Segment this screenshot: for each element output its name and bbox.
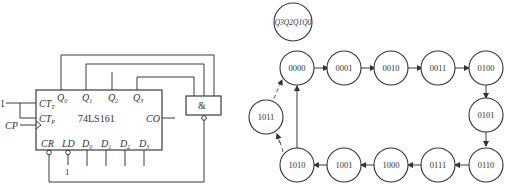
svg-text:0000: 0000 (289, 63, 306, 73)
dashed-seg-1010-1011 (278, 135, 283, 152)
and-gate-symbol: & (198, 100, 206, 111)
enable-input-label: 1 (0, 98, 5, 109)
svg-text:0011: 0011 (430, 63, 447, 73)
state-1000: 1000 (374, 148, 408, 182)
gate-inverter-bubble (202, 116, 207, 121)
svg-text:1011: 1011 (258, 112, 275, 122)
svg-text:1001: 1001 (336, 160, 353, 170)
state-0000: 0000 (280, 51, 314, 85)
co-label: CO (146, 113, 160, 124)
chip-name: 74LS161 (78, 113, 115, 124)
ld-bubble (66, 150, 71, 155)
state-0110: 0110 (469, 148, 503, 182)
svg-text:0100: 0100 (478, 63, 495, 73)
state-legend-label: Q3Q2Q1Q0 (275, 18, 312, 27)
cr-label: CR (41, 138, 54, 149)
svg-text:1010: 1010 (289, 160, 306, 170)
ld-input-label: 1 (65, 167, 70, 177)
diagram-canvas: 1 CTT CTP CP 74LS161 CO Q0 Q1 Q2 Q3 CR L… (0, 0, 521, 191)
state-0101: 0101 (469, 98, 503, 132)
svg-text:0001: 0001 (336, 63, 353, 73)
state-0001: 0001 (327, 51, 361, 85)
svg-text:0110: 0110 (478, 160, 495, 170)
svg-text:0101: 0101 (478, 110, 495, 120)
cp-label: CP (5, 120, 18, 131)
state-0011: 0011 (421, 51, 455, 85)
cr-bubble (47, 150, 52, 155)
svg-text:0010: 0010 (383, 63, 400, 73)
state-1010: 1010 (280, 148, 314, 182)
wire-ct-p (20, 103, 36, 118)
state-0111: 0111 (421, 148, 455, 182)
state-0010: 0010 (374, 51, 408, 85)
ld-label: LD (61, 138, 76, 149)
state-diagram: Q3Q2Q1Q0 0000 0001 0010 0011 0100 0101 0… (249, 3, 503, 182)
svg-text:0111: 0111 (430, 160, 446, 170)
state-0100: 0100 (469, 51, 503, 85)
counter-circuit: 1 CTT CTP CP 74LS161 CO Q0 Q1 Q2 Q3 CR L… (0, 55, 221, 182)
state-1001: 1001 (327, 148, 361, 182)
svg-text:1000: 1000 (383, 160, 400, 170)
state-1011: 1011 (249, 100, 283, 134)
